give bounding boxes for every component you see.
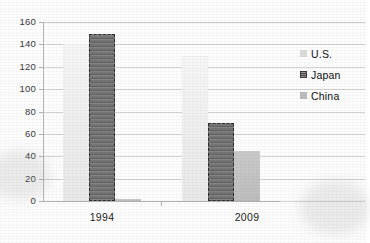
y-axis-label-120: 120 [6, 61, 36, 72]
legend-item-japan[interactable]: Japan [300, 64, 362, 85]
x-axis-label-1994: 1994 [67, 211, 137, 223]
chart-legend: U.S. Japan China [300, 43, 362, 106]
y-axis-label-140: 140 [6, 38, 36, 49]
legend-label-china: China [311, 90, 339, 102]
legend-item-us[interactable]: U.S. [300, 43, 362, 64]
bar-japan-2009 [208, 123, 234, 201]
legend-item-china[interactable]: China [300, 85, 362, 106]
x-axis-tick-divider [161, 201, 162, 206]
scan-smudge [300, 180, 370, 235]
bar-china-1994 [115, 199, 141, 201]
bar-china-2009 [234, 151, 260, 201]
legend-label-us: U.S. [311, 48, 332, 60]
y-axis-label-40: 40 [6, 150, 36, 161]
bar-japan-1994 [89, 34, 115, 201]
bar-us-1994 [63, 44, 89, 201]
legend-swatch-china-icon [300, 92, 307, 99]
y-axis-label-100: 100 [6, 83, 36, 94]
y-axis-label-60: 60 [6, 128, 36, 139]
legend-swatch-japan-icon [300, 71, 307, 78]
y-axis-label-80: 80 [6, 106, 36, 117]
legend-swatch-us-icon [300, 50, 307, 57]
y-axis-tick-0 [39, 201, 43, 202]
legend-label-japan: Japan [311, 69, 341, 81]
y-axis-label-0: 0 [6, 195, 36, 206]
plot-area [43, 22, 280, 201]
y-axis-label-160: 160 [6, 16, 36, 27]
bar-us-2009 [182, 56, 208, 201]
y-axis-label-20: 20 [6, 173, 36, 184]
x-axis-label-2009: 2009 [212, 211, 282, 223]
